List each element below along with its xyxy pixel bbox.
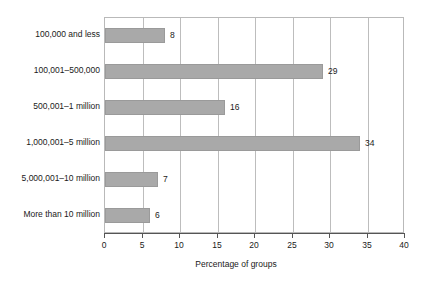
x-tick-label: 10 [174,240,183,250]
category-label: 100,000 and less [35,29,100,39]
x-tick [404,233,405,238]
x-tick-label: 25 [287,240,296,250]
x-tick [367,233,368,238]
x-tick-label: 5 [140,240,145,250]
category-label: More than 10 million [23,209,100,219]
x-axis-title: Percentage of groups [0,259,432,269]
x-tick [217,233,218,238]
x-tick [292,233,293,238]
x-tick [179,233,180,238]
x-tick [329,233,330,238]
x-tick [104,233,105,238]
x-tick-label: 15 [212,240,221,250]
x-tick-label: 40 [399,240,408,250]
x-tick-label: 0 [102,240,107,250]
x-tick-label: 35 [362,240,371,250]
category-label: 500,001–1 million [33,101,100,111]
category-axis-labels: 100,000 and less100,001–500,000500,001–1… [0,17,432,233]
x-tick [142,233,143,238]
category-label: 1,000,001–5 million [26,137,100,147]
x-tick [254,233,255,238]
x-axis-title-label: Percentage of groups [195,259,276,269]
bar-chart-figure: 829163476 100,000 and less100,001–500,00… [0,0,432,284]
x-tick-label: 20 [249,240,258,250]
category-label: 5,000,001–10 million [22,173,100,183]
x-tick-label: 30 [324,240,333,250]
category-label: 100,001–500,000 [34,65,100,75]
